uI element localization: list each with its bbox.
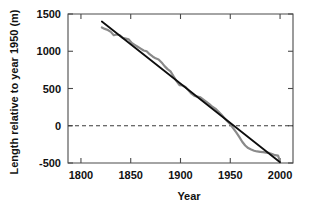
y-tick-label: -500 — [39, 157, 61, 169]
y-tick-label: 0 — [55, 120, 61, 132]
x-tick-label: 1800 — [69, 169, 93, 181]
y-axis-title: Length relative to year 1950 (m) — [8, 9, 20, 174]
x-tick-label: 1850 — [118, 169, 142, 181]
y-tick-label: 1500 — [37, 8, 61, 20]
x-tick-label: 1950 — [218, 169, 242, 181]
x-tick-label: 1900 — [168, 169, 192, 181]
x-tick-label: 2000 — [268, 169, 292, 181]
glacier-length-chart: -500050010001500 18001850190019502000 Le… — [0, 0, 322, 207]
y-tick-label: 1000 — [37, 45, 61, 57]
y-tick-label: 500 — [43, 83, 61, 95]
x-axis-title: Year — [177, 190, 201, 202]
